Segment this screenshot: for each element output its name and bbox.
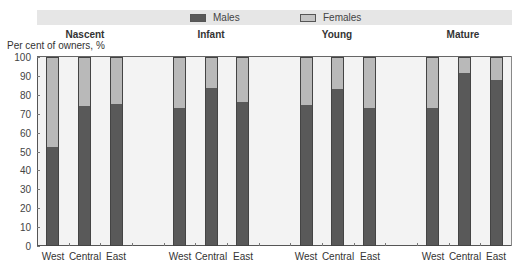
- bar-infant-east: [236, 57, 249, 246]
- bar-segment-males: [459, 73, 470, 245]
- group-label-infant: Infant: [197, 29, 224, 40]
- bar-segment-females: [301, 58, 312, 108]
- x-tick-label: East: [106, 251, 126, 262]
- y-tick-label: 90: [0, 70, 31, 81]
- legend-label-females: Females: [323, 12, 361, 23]
- males-swatch-icon: [190, 14, 206, 22]
- y-tick-mark: [37, 170, 40, 171]
- x-tick-label: Central: [449, 251, 481, 262]
- x-tick-label: Central: [69, 251, 101, 262]
- x-tick-mark: [354, 243, 355, 246]
- females-swatch-icon: [300, 14, 316, 22]
- bar-infant-central: [205, 57, 218, 246]
- bar-segment-females: [206, 58, 217, 91]
- plot-right-border: [511, 56, 512, 246]
- bar-segment-males: [47, 147, 58, 245]
- bar-mature-central: [458, 57, 471, 246]
- bar-young-central: [331, 57, 344, 246]
- x-tick-mark: [164, 243, 165, 246]
- plot-area: [37, 57, 512, 246]
- bar-segment-males: [364, 108, 375, 245]
- y-tick-label: 0: [0, 241, 31, 252]
- y-tick-mark: [37, 227, 40, 228]
- x-tick-mark: [480, 243, 481, 246]
- group-label-nascent: Nascent: [66, 29, 105, 40]
- legend: Males Females: [37, 10, 512, 25]
- x-tick-mark: [69, 243, 70, 246]
- x-tick-label: Central: [195, 251, 227, 262]
- bar-segment-males: [301, 105, 312, 245]
- bar-segment-males: [491, 80, 502, 245]
- x-tick-label: West: [422, 251, 445, 262]
- x-tick-label: East: [360, 251, 380, 262]
- y-tick-mark: [37, 133, 40, 134]
- y-tick-mark: [37, 57, 40, 58]
- bar-segment-females: [237, 58, 248, 105]
- x-tick-mark: [322, 243, 323, 246]
- group-label-mature: Mature: [447, 29, 480, 40]
- y-tick-label: 10: [0, 222, 31, 233]
- y-tick-label: 50: [0, 146, 31, 157]
- y-axis-title: Per cent of owners, %: [7, 40, 105, 51]
- y-tick-mark: [37, 95, 40, 96]
- bar-segment-females: [427, 58, 438, 111]
- x-tick-label: East: [486, 251, 506, 262]
- legend-item-males: Males: [190, 10, 240, 25]
- x-tick-label: Central: [322, 251, 354, 262]
- plot-top-border: [37, 56, 512, 57]
- x-tick-label: West: [295, 251, 318, 262]
- bar-segment-females: [79, 58, 90, 109]
- bar-segment-females: [364, 58, 375, 111]
- bar-segment-males: [111, 104, 122, 245]
- y-tick-label: 40: [0, 165, 31, 176]
- x-tick-mark: [195, 243, 196, 246]
- bar-segment-males: [79, 106, 90, 245]
- y-tick-label: 20: [0, 203, 31, 214]
- y-tick-mark: [37, 246, 40, 247]
- bar-nascent-central: [78, 57, 91, 246]
- bar-segment-females: [47, 58, 58, 150]
- bar-segment-males: [206, 88, 217, 245]
- y-tick-label: 30: [0, 184, 31, 195]
- y-tick-mark: [37, 189, 40, 190]
- y-tick-mark: [37, 114, 40, 115]
- x-tick-mark: [290, 243, 291, 246]
- y-tick-label: 60: [0, 127, 31, 138]
- bar-nascent-west: [46, 57, 59, 246]
- y-tick-label: 80: [0, 89, 31, 100]
- bar-young-west: [300, 57, 313, 246]
- y-tick-mark: [37, 76, 40, 77]
- x-tick-label: West: [169, 251, 192, 262]
- legend-label-males: Males: [213, 12, 240, 23]
- y-tick-label: 70: [0, 108, 31, 119]
- group-label-young: Young: [322, 29, 352, 40]
- bar-young-east: [363, 57, 376, 246]
- x-tick-mark: [385, 243, 386, 246]
- bar-segment-males: [332, 89, 343, 245]
- x-tick-mark: [259, 243, 260, 246]
- x-tick-label: East: [233, 251, 253, 262]
- y-tick-label: 100: [0, 52, 31, 63]
- bar-segment-males: [427, 108, 438, 245]
- x-tick-label: West: [42, 251, 65, 262]
- bar-mature-east: [490, 57, 503, 246]
- bar-segment-males: [174, 108, 185, 245]
- y-tick-mark: [37, 208, 40, 209]
- legend-item-females: Females: [300, 10, 361, 25]
- x-tick-mark: [417, 243, 418, 246]
- bar-segment-females: [332, 58, 343, 92]
- bar-nascent-east: [110, 57, 123, 246]
- bar-segment-females: [111, 58, 122, 107]
- bar-segment-females: [174, 58, 185, 111]
- bar-infant-west: [173, 57, 186, 246]
- x-tick-mark: [449, 243, 450, 246]
- bar-segment-males: [237, 102, 248, 245]
- x-tick-mark: [132, 243, 133, 246]
- y-tick-mark: [37, 152, 40, 153]
- x-tick-mark: [227, 243, 228, 246]
- bar-mature-west: [426, 57, 439, 246]
- x-tick-mark: [100, 243, 101, 246]
